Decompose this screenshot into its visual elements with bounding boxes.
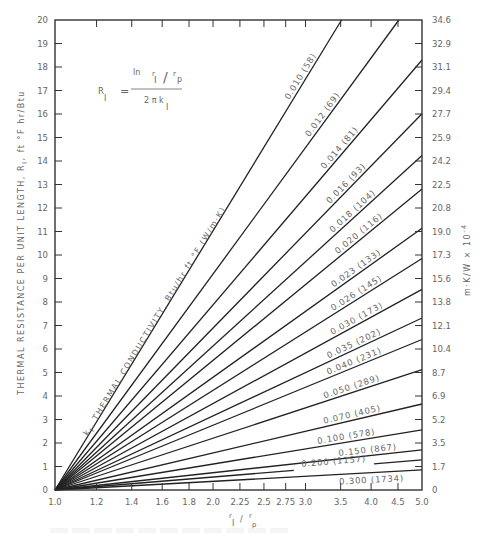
y-tick-label: 7 (43, 321, 48, 331)
y2-tick-label: 17.3 (432, 250, 451, 260)
curve-label: 0.100 (578) (316, 426, 376, 445)
y-tick-label: 6 (43, 344, 48, 354)
y-tick-label: 12 (37, 203, 48, 213)
y2-tick-label: 6.9 (432, 391, 446, 401)
x-tick-label: 1.6 (155, 497, 169, 507)
y2-tick-label: 13.8 (432, 297, 451, 307)
y2-tick-label: 34.6 (432, 15, 451, 25)
figure-caption-faint (50, 528, 290, 533)
y2-tick-label: 1.7 (432, 462, 446, 472)
svg-text:2 π k: 2 π k (144, 96, 164, 105)
y-tick-label: 0 (43, 485, 48, 495)
svg-text:I: I (104, 94, 106, 103)
curve-k-0.200 (374, 460, 422, 464)
svg-text:ln: ln (133, 68, 140, 77)
formula: R I = ln r I / r p 2 π k I (98, 68, 182, 112)
y-tick-label: 18 (37, 62, 48, 72)
y2-tick-label: 10.4 (432, 344, 451, 354)
y2-tick-label: 15.6 (432, 274, 451, 284)
y2-tick-label: 22.5 (432, 180, 451, 190)
curve-k-0.014 (55, 60, 422, 490)
y2-tick-label: 20.8 (432, 203, 451, 213)
x-axis-title: r I / r p (229, 512, 257, 529)
y-tick-label: 15 (37, 133, 48, 143)
y-tick-label: 11 (37, 227, 48, 237)
y-tick-label: 14 (37, 156, 48, 166)
y2-tick-label: 8.7 (432, 368, 446, 378)
y-tick-label: 13 (37, 180, 48, 190)
y2-tick-label: 31.1 (432, 62, 451, 72)
svg-text:=: = (120, 85, 129, 98)
svg-text:m·K/W × 10-4: m·K/W × 10-4 (460, 223, 472, 296)
curve-k-0.035 (55, 318, 422, 490)
y-tick-label: 17 (37, 86, 48, 96)
x-tick-label: 2.75 (276, 497, 295, 507)
y2-axis-title: m·K/W × 10-4 (460, 223, 472, 296)
svg-text:/: / (163, 69, 168, 85)
y-tick-label: 19 (37, 39, 48, 49)
x-tick-label: 2.0 (206, 497, 220, 507)
curve-family-label: kI, THERMAL CONDUCTIVITY, Btu/hr ft °F (… (82, 205, 231, 439)
curve-label: 0.014 (81) (318, 124, 360, 170)
curve-label: 0.200 (1157) (301, 453, 367, 468)
svg-text:I: I (166, 103, 168, 112)
curve-k-0.018 (55, 156, 422, 490)
y-axis-title: THERMAL RESISTANCE PER UNIT LENGTH, RI, … (17, 90, 29, 396)
conductivity-curves: 0.010 (58)0.012 (69)0.014 (81)0.016 (93)… (55, 20, 422, 490)
x-tick-label: 1.2 (90, 497, 104, 507)
x-tick-label: 1.4 (125, 497, 139, 507)
x-tick-label: 2.25 (230, 497, 249, 507)
svg-text:r: r (249, 512, 252, 520)
y2-tick-label: 0 (432, 485, 437, 495)
y-tick-label: 4 (43, 391, 48, 401)
y2-tick-label: 24.2 (432, 156, 451, 166)
y2-tick-label: 3.5 (432, 438, 446, 448)
svg-text:I: I (154, 75, 157, 85)
y-tick-label: 5 (43, 368, 48, 378)
svg-text:r: r (173, 70, 176, 78)
y-tick-label: 8 (43, 297, 48, 307)
y2-tick-label: 5.2 (432, 415, 446, 425)
curve-label: 0.012 (69) (303, 90, 342, 138)
y-tick-label: 10 (37, 250, 48, 260)
y2-tick-label: 19.0 (432, 227, 451, 237)
x-tick-label: 4.5 (391, 497, 405, 507)
thermal-resistance-chart: 0.010 (58)0.012 (69)0.014 (81)0.016 (93)… (0, 0, 491, 541)
svg-text:THERMAL RESISTANCE PER UNIT LE: THERMAL RESISTANCE PER UNIT LENGTH, RI, … (17, 90, 29, 396)
y-tick-label: 20 (37, 15, 48, 25)
x-tick-label: 3.0 (299, 497, 313, 507)
x-tick-label: 4.0 (364, 497, 378, 507)
y-tick-label: 1 (43, 462, 48, 472)
x-tick-label: 5.0 (415, 497, 429, 507)
svg-text:I: I (232, 519, 234, 528)
y2-tick-label: 32.9 (432, 39, 451, 49)
svg-text:/: / (240, 515, 243, 524)
y2-tick-label: 27.7 (432, 109, 451, 119)
y2-tick-label: 25.9 (432, 133, 451, 143)
y2-tick-label: 29.4 (432, 86, 451, 96)
x-tick-label: 3.5 (334, 497, 348, 507)
curve-label: 0.010 (58) (282, 51, 318, 101)
x-tick-label: 2.5 (257, 497, 271, 507)
y-tick-label: 3 (43, 415, 48, 425)
curve-label: 0.070 (405) (322, 403, 381, 426)
y-tick-label: 2 (43, 438, 48, 448)
svg-text:p: p (177, 75, 182, 84)
y-tick-label: 16 (37, 109, 48, 119)
y-tick-label: 9 (43, 274, 48, 284)
x-tick-label: 1.8 (182, 497, 196, 507)
svg-text:kI, THERMAL CONDUCTIVITY, Btu/: kI, THERMAL CONDUCTIVITY, Btu/hr ft °F (… (82, 205, 231, 439)
x-tick-label: 1.0 (48, 497, 62, 507)
y2-tick-label: 12.1 (432, 321, 451, 331)
